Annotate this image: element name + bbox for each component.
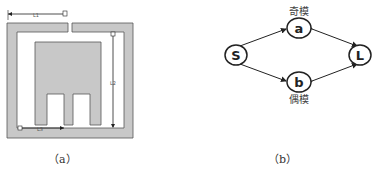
- svg-text:S: S: [231, 48, 240, 63]
- caption-b: （b）: [268, 150, 297, 166]
- svg-text:b: b: [294, 75, 303, 90]
- svg-text:L: L: [356, 48, 364, 63]
- resonator-drawing: L1 L2 L3: [0, 0, 140, 145]
- node-l: L: [349, 45, 371, 65]
- dimension-top: L1: [8, 10, 67, 20]
- svg-text:L1: L1: [33, 12, 39, 18]
- even-mode-label: 偶模: [289, 93, 309, 105]
- mode-diagram: a b S L 奇模 偶模: [190, 0, 375, 140]
- edge-b-l: [312, 64, 357, 81]
- svg-text:L2: L2: [110, 80, 116, 86]
- node-b: b: [287, 72, 311, 92]
- caption-a: （a）: [48, 150, 77, 166]
- mode-graph: a b S L 奇模 偶模: [190, 0, 375, 140]
- resonator-inner-patch: [35, 42, 101, 125]
- node-s: S: [225, 45, 247, 65]
- odd-mode-label: 奇模: [289, 5, 309, 17]
- edge-s-a: [240, 29, 286, 46]
- svg-text:a: a: [295, 21, 304, 36]
- resonator-figure: L1 L2 L3: [0, 0, 140, 145]
- dimension-right: L2: [110, 32, 116, 128]
- svg-text:L3: L3: [37, 126, 43, 132]
- edge-s-b: [240, 64, 286, 81]
- edge-a-l: [312, 29, 357, 46]
- node-a: a: [287, 18, 311, 38]
